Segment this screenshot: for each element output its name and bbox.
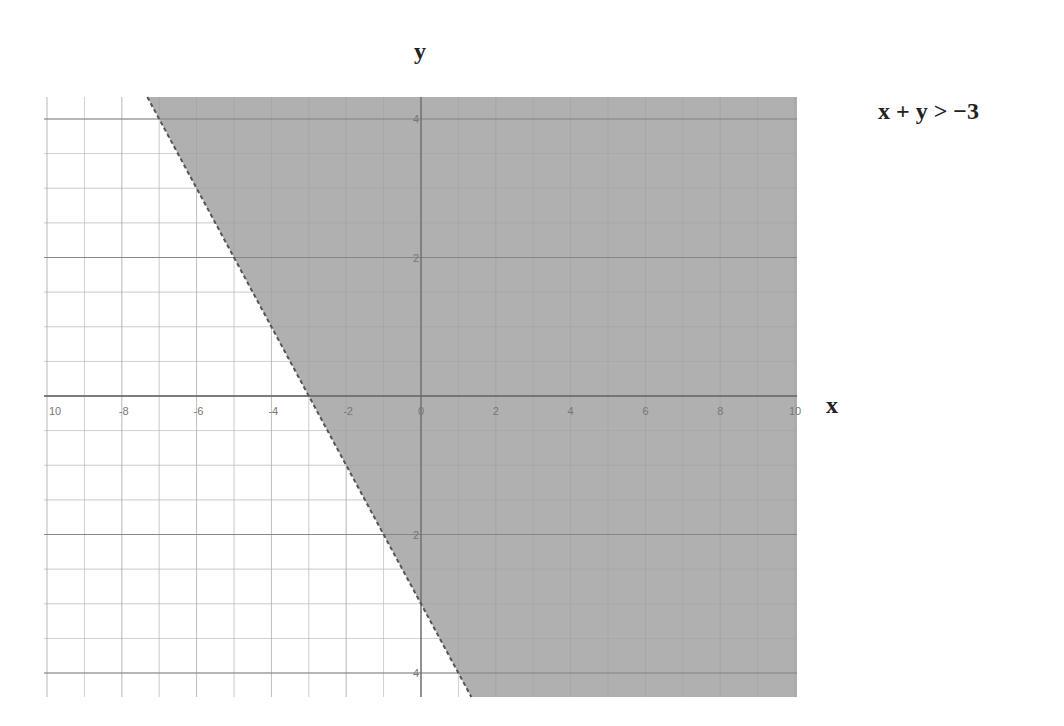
x-tick-label: -4 xyxy=(268,405,278,417)
x-tick-label: 2 xyxy=(493,405,499,417)
y-axis-title: y xyxy=(414,38,426,65)
y-tick-label: 4 xyxy=(413,113,419,125)
x-tick-label: 6 xyxy=(642,405,648,417)
x-axis-title: x xyxy=(826,392,838,419)
x-tick-label: 10 xyxy=(49,405,61,417)
x-tick-label: -8 xyxy=(119,405,129,417)
x-tick-label: 4 xyxy=(568,405,574,417)
x-tick-label: 0 xyxy=(418,405,424,417)
y-tick-label: 2 xyxy=(413,529,419,541)
x-tick-label: -6 xyxy=(194,405,204,417)
y-tick-label: 4 xyxy=(413,667,419,679)
x-tick-label: 10 xyxy=(789,405,801,417)
inequality-label: x + y > −3 xyxy=(878,98,979,125)
x-tick-label: 8 xyxy=(717,405,723,417)
x-tick-label: -2 xyxy=(343,405,353,417)
solution-region xyxy=(147,97,797,697)
y-tick-label: 2 xyxy=(413,252,419,264)
